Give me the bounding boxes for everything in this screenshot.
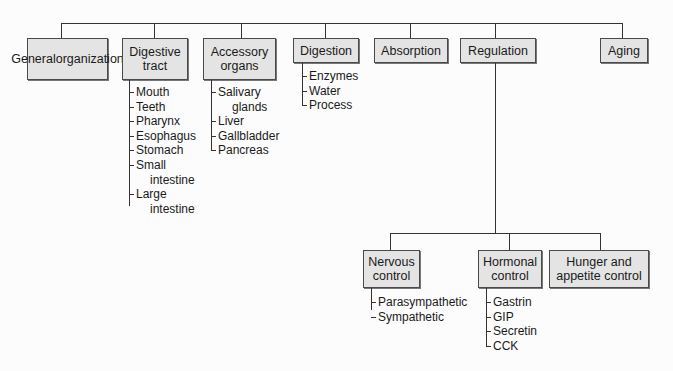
regulation-connector <box>495 63 496 233</box>
top-connector-bar <box>61 23 623 24</box>
list-item: Gastrin <box>487 295 537 310</box>
list-item: Sympathetic <box>372 310 467 325</box>
list-item: Mouth <box>130 85 196 100</box>
list-item: Process <box>303 98 358 113</box>
list-item: Gallbladder <box>212 129 279 144</box>
label: Nervous <box>368 255 415 269</box>
list-item: Pharynx <box>130 114 196 129</box>
node-aging: Aging <box>600 38 648 63</box>
list-item: Pancreas <box>212 143 279 158</box>
list-item: Largeintestine <box>130 187 196 216</box>
nervous-control-list: Parasympathetic Sympathetic <box>372 295 467 324</box>
list-item: Parasympathetic <box>372 295 467 310</box>
label: Regulation <box>468 44 528 58</box>
label: appetite control <box>556 269 641 283</box>
list-item: Salivaryglands <box>212 85 279 114</box>
list-item: Smallintestine <box>130 158 196 187</box>
node-digestion: Digestion <box>293 38 359 63</box>
connector <box>390 233 391 250</box>
node-absorption: Absorption <box>374 38 448 63</box>
label: tract <box>143 59 167 73</box>
label: control <box>373 269 411 283</box>
connector <box>154 23 155 38</box>
label: control <box>491 269 529 283</box>
node-accessory-organs: Accessoryorgans <box>203 38 276 80</box>
node-digestive-tract: Digestivetract <box>122 38 188 80</box>
label: Hunger and <box>566 255 631 269</box>
accessory-organs-list: Salivaryglands Liver Gallbladder Pancrea… <box>212 85 279 158</box>
list-item: Secretin <box>487 324 537 339</box>
node-hormonal-control: Hormonalcontrol <box>478 250 542 288</box>
connector <box>410 23 411 38</box>
node-hunger-appetite-control: Hunger andappetite control <box>549 250 649 288</box>
list-item: Esophagus <box>130 129 196 144</box>
connector <box>495 23 496 38</box>
list-item: Stomach <box>130 143 196 158</box>
node-general-organization: Generalorganization <box>27 38 108 80</box>
list-item: Teeth <box>130 100 196 115</box>
list-item: Enzymes <box>303 69 358 84</box>
connector <box>622 23 623 38</box>
label: Absorption <box>381 44 441 58</box>
node-regulation: Regulation <box>460 38 536 63</box>
regulation-sub-bar <box>390 233 601 234</box>
label: Hormonal <box>483 255 537 269</box>
connector <box>509 233 510 250</box>
list-item: CCK <box>487 339 537 354</box>
label: Digestive <box>129 45 180 59</box>
label: organs <box>220 59 258 73</box>
node-nervous-control: Nervouscontrol <box>363 250 420 288</box>
list-item: Liver <box>212 114 279 129</box>
digestion-list: Enzymes Water Process <box>303 69 358 113</box>
connector <box>241 23 242 38</box>
digestive-tract-list: Mouth Teeth Pharynx Esophagus Stomach Sm… <box>130 85 196 216</box>
connector <box>325 23 326 38</box>
list-item: Water <box>303 84 358 99</box>
connector <box>600 233 601 250</box>
label: Accessory <box>211 45 269 59</box>
label: Digestion <box>300 44 352 58</box>
list-item: GIP <box>487 310 537 325</box>
hormonal-control-list: Gastrin GIP Secretin CCK <box>487 295 537 353</box>
connector <box>61 23 62 38</box>
label: Aging <box>608 44 640 58</box>
